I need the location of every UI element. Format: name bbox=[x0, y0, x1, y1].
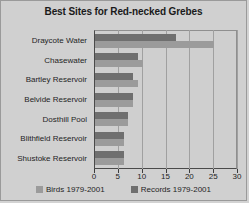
bar bbox=[95, 132, 124, 139]
chart-container: Best Sites for Red-necked Grebes Draycot… bbox=[0, 0, 247, 201]
bar bbox=[95, 34, 176, 41]
legend-label: Birds 1979-2001 bbox=[46, 185, 105, 194]
bar-group bbox=[95, 31, 237, 51]
bar bbox=[95, 60, 143, 67]
x-tick-label: 0 bbox=[92, 172, 96, 181]
bar bbox=[95, 112, 128, 119]
bar bbox=[95, 151, 124, 158]
legend-swatch-icon bbox=[36, 186, 43, 193]
bar bbox=[95, 139, 124, 146]
x-tick-label: 20 bbox=[185, 172, 194, 181]
x-axis-tick-labels: 051015202530 bbox=[94, 172, 237, 184]
category-label: Blithfield Reservoir bbox=[1, 129, 91, 149]
category-label: Belvide Reservoir bbox=[1, 90, 91, 110]
bar-group bbox=[95, 70, 237, 90]
bar-group bbox=[95, 51, 237, 71]
category-axis-labels: Draycote WaterChasewaterBartley Reservoi… bbox=[1, 30, 91, 169]
x-tick-label: 5 bbox=[116, 172, 120, 181]
x-tick-label: 25 bbox=[209, 172, 218, 181]
gridline-30 bbox=[237, 30, 238, 169]
x-tick-label: 15 bbox=[161, 172, 170, 181]
bar bbox=[95, 41, 214, 48]
bar-group bbox=[95, 109, 237, 129]
bar-rows bbox=[94, 30, 237, 169]
bar bbox=[95, 73, 133, 80]
legend-swatch-icon bbox=[131, 186, 138, 193]
bar bbox=[95, 100, 133, 107]
bar-group bbox=[95, 148, 237, 168]
chart-legend: Birds 1979-2001Records 1979-2001 bbox=[1, 185, 246, 194]
x-tick-label: 10 bbox=[137, 172, 146, 181]
bar-group bbox=[95, 90, 237, 110]
plot-area-wrapper bbox=[94, 30, 237, 169]
bar bbox=[95, 158, 124, 165]
bar bbox=[95, 53, 138, 60]
category-label: Dosthill Pool bbox=[1, 109, 91, 129]
chart-title: Best Sites for Red-necked Grebes bbox=[1, 6, 246, 17]
category-label: Bartley Reservoir bbox=[1, 70, 91, 90]
legend-item[interactable]: Records 1979-2001 bbox=[131, 185, 211, 194]
bar bbox=[95, 93, 133, 100]
category-label: Chasewater bbox=[1, 51, 91, 71]
legend-item[interactable]: Birds 1979-2001 bbox=[36, 185, 105, 194]
category-label: Draycote Water bbox=[1, 31, 91, 51]
x-tick-label: 30 bbox=[233, 172, 242, 181]
category-label: Shustoke Reservoir bbox=[1, 148, 91, 168]
legend-label: Records 1979-2001 bbox=[141, 185, 211, 194]
bar bbox=[95, 80, 138, 87]
bar bbox=[95, 119, 128, 126]
bar-group bbox=[95, 129, 237, 149]
